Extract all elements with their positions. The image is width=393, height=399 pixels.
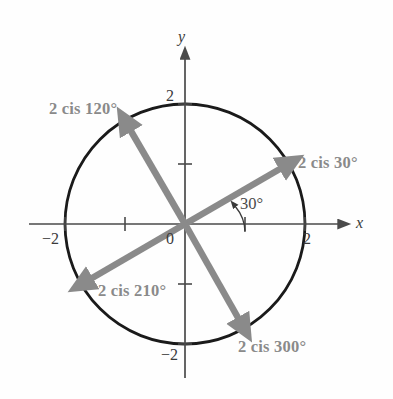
origin-label: 0 xyxy=(166,231,174,247)
tick-label-x-positive-2: 2 xyxy=(303,231,311,247)
tick-label-y-negative-2: −2 xyxy=(161,347,178,363)
label-2-cis-120: 2 cis 120° xyxy=(49,101,117,118)
label-2-cis-30: 2 cis 30° xyxy=(298,155,358,172)
diagram-canvas xyxy=(0,0,393,399)
label-angle-30-degrees: 30° xyxy=(240,196,263,213)
tick-label-y-positive-2: 2 xyxy=(166,88,174,104)
label-2-cis-210: 2 cis 210° xyxy=(98,283,166,300)
axis-label-y: y xyxy=(178,29,185,45)
tick-label-x-negative-2: −2 xyxy=(42,231,59,247)
vector-2-cis-300 xyxy=(185,224,241,323)
axis-label-x: x xyxy=(356,215,363,231)
vector-2-cis-120 xyxy=(128,126,185,224)
complex-plane-figure: 2 cis 120° 2 cis 30° 2 cis 210° 2 cis 30… xyxy=(0,0,393,399)
label-2-cis-300: 2 cis 300° xyxy=(238,339,306,356)
vector-2-cis-30 xyxy=(185,166,285,224)
